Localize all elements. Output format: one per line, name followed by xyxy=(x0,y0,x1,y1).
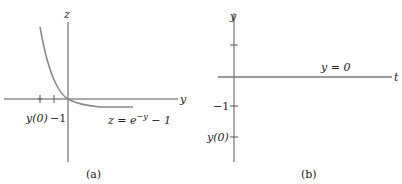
panel-a-x-axis-label: y xyxy=(179,93,187,106)
panel-a-caption: (a) xyxy=(86,168,101,181)
panel-b-y-axis-label: y xyxy=(229,10,237,23)
panel-a: y z y(0) −1 z = e−y − 1 (a) xyxy=(4,8,187,181)
panel-b-y0-label: y(0) xyxy=(206,131,229,144)
panel-a-minus-one-label: −1 xyxy=(50,112,66,125)
panel-b-minus-one-label: −1 xyxy=(213,100,229,113)
panel-b: t y −1 y(0) y = 0 (b) xyxy=(206,10,399,181)
panel-a-y0-label: y(0) xyxy=(25,112,48,125)
panel-a-curve-label: z = e−y − 1 xyxy=(107,112,171,127)
panel-a-y-axis-label: z xyxy=(63,8,70,21)
diagram-canvas: y z y(0) −1 z = e−y − 1 (a) t y −1 y(0) … xyxy=(0,0,402,184)
panel-b-x-axis-label: t xyxy=(394,71,399,84)
panel-b-caption: (b) xyxy=(301,168,317,181)
panel-b-line-label: y = 0 xyxy=(320,61,350,74)
